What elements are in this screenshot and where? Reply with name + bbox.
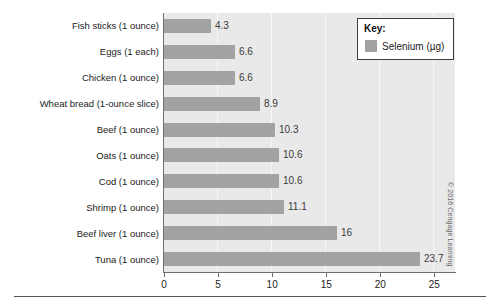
x-tick-mark: [434, 272, 435, 277]
bar: [164, 71, 235, 85]
bar-value-label: 10.3: [279, 124, 298, 136]
legend-title: Key:: [364, 23, 386, 35]
x-tick-label: 5: [215, 279, 221, 291]
bar: [164, 226, 337, 240]
category-label: Oats (1 ounce): [0, 150, 159, 161]
bar: [164, 148, 279, 162]
bar-value-label: 6.6: [239, 72, 253, 84]
selenium-bar-chart-figure: 0510152025 Fish sticks (1 ounce)4.3Eggs …: [0, 0, 487, 304]
bar-value-label: 4.3: [215, 20, 229, 32]
x-tick-label: 10: [267, 279, 278, 291]
bar-value-label: 10.6: [283, 149, 302, 161]
legend-series-label: Selenium (µg): [382, 41, 444, 53]
bar-value-label: 11.1: [288, 201, 307, 213]
bar-value-label: 6.6: [239, 46, 253, 58]
category-label: Cod (1 ounce): [0, 176, 159, 187]
x-tick-mark: [380, 272, 381, 277]
bar-value-label: 23.7: [424, 253, 443, 265]
bar-value-label: 8.9: [264, 98, 278, 110]
category-label: Shrimp (1 ounce): [0, 202, 159, 213]
bar: [164, 45, 235, 59]
bar: [164, 174, 279, 188]
category-label: Wheat bread (1-ounce slice): [0, 98, 159, 109]
category-label: Chicken (1 ounce): [0, 72, 159, 83]
x-tick-label: 20: [375, 279, 386, 291]
x-tick-label: 25: [429, 279, 440, 291]
bar: [164, 252, 420, 266]
x-tick-mark: [164, 272, 165, 277]
x-tick-label: 0: [161, 279, 167, 291]
legend-swatch-icon: [365, 40, 377, 52]
x-tick-mark: [218, 272, 219, 277]
category-label: Fish sticks (1 ounce): [0, 20, 159, 31]
x-tick-mark: [272, 272, 273, 277]
category-label: Beef liver (1 ounce): [0, 228, 159, 239]
bottom-rule: [14, 296, 486, 297]
category-label: Tuna (1 ounce): [0, 254, 159, 265]
bar: [164, 123, 275, 137]
copyright-credit: © 2016 Cengage Learning: [446, 182, 454, 267]
bar: [164, 200, 284, 214]
category-label: Beef (1 ounce): [0, 124, 159, 135]
category-label: Eggs (1 each): [0, 46, 159, 57]
bar-value-label: 10.6: [283, 175, 302, 187]
x-tick-label: 15: [321, 279, 332, 291]
bar-value-label: 16: [341, 227, 352, 239]
x-axis-line: [163, 272, 456, 273]
bar: [164, 97, 260, 111]
bar: [164, 19, 211, 33]
legend-box: Key: Selenium (µg): [357, 18, 454, 60]
x-tick-mark: [326, 272, 327, 277]
